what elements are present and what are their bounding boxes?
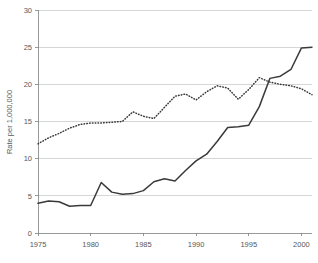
y-tick-labels: 051015202530	[24, 6, 32, 238]
x-tick-label: 1990	[188, 240, 205, 249]
line-chart: 051015202530 197519801985199019952000 Ra…	[0, 0, 318, 263]
x-tick-label: 1980	[82, 240, 99, 249]
x-tick-labels: 197519801985199019952000	[30, 240, 310, 249]
x-tick-marks	[38, 233, 301, 236]
x-tick-label: 1975	[30, 240, 47, 249]
y-tick-label: 30	[24, 6, 32, 15]
y-axis-title: Rate per 1,000,000	[5, 90, 14, 154]
x-tick-label: 2000	[293, 240, 310, 249]
series-line-solid-series	[38, 47, 312, 206]
gridlines	[38, 10, 312, 196]
series-line-dotted-series	[38, 78, 312, 144]
y-tick-label: 5	[28, 192, 32, 201]
y-tick-label: 10	[24, 154, 32, 163]
x-tick-label: 1995	[240, 240, 257, 249]
y-tick-label: 25	[24, 43, 32, 52]
data-series	[38, 47, 312, 206]
y-tick-label: 20	[24, 80, 32, 89]
x-tick-label: 1985	[135, 240, 152, 249]
chart-container: 051015202530 197519801985199019952000 Ra…	[0, 0, 318, 263]
y-tick-label: 0	[28, 229, 32, 238]
y-tick-marks	[35, 10, 38, 233]
y-tick-label: 15	[24, 117, 32, 126]
